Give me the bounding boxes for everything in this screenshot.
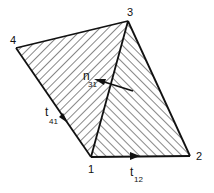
edge-2-1 [91,156,190,157]
label-t12: t 12 [130,165,143,184]
svg-text:31: 31 [88,80,97,89]
vertex-label-4: 4 [10,34,16,46]
quadrilateral-diagram: 1 2 3 4 t 41 t 12 n 31 [0,0,214,193]
svg-text:12: 12 [134,175,143,184]
vertex-label-3: 3 [127,6,133,18]
svg-text:41: 41 [49,117,58,126]
vertex-label-2: 2 [196,150,202,162]
vertex-label-1: 1 [88,163,94,175]
